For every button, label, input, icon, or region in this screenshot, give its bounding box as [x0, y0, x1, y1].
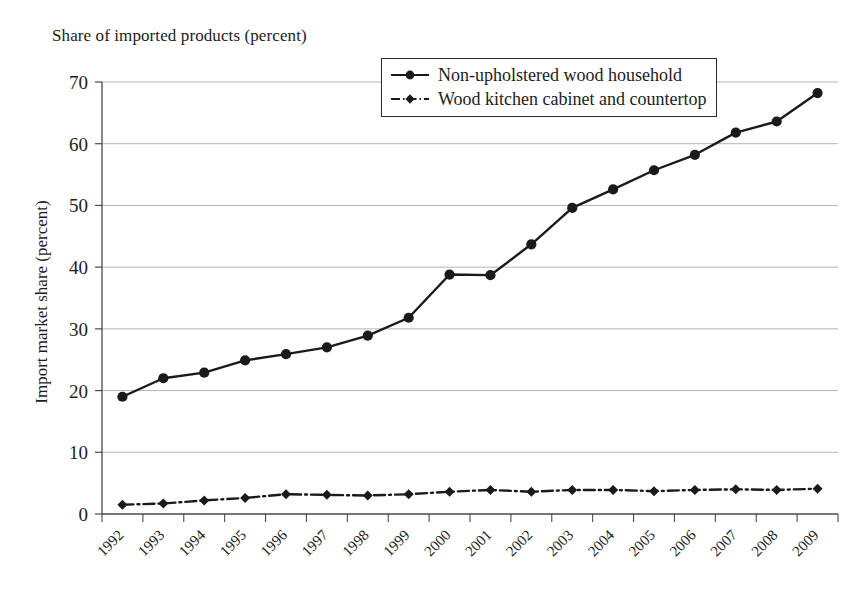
x-axis-tick-label: 1998 [339, 527, 372, 560]
series-line-2 [122, 489, 817, 505]
data-point [199, 368, 209, 378]
data-point [690, 485, 700, 495]
data-point [240, 493, 250, 503]
diamond-marker-icon [390, 91, 430, 107]
data-point [281, 489, 291, 499]
y-axis-tick-label: 60 [69, 134, 88, 155]
data-point [731, 128, 741, 138]
chart-legend: Non-upholstered wood household Wood kitc… [381, 58, 717, 117]
series-line-1 [122, 93, 817, 397]
x-axis-tick-label: 2003 [544, 527, 577, 560]
data-point [363, 490, 373, 500]
data-point [608, 184, 618, 194]
data-point [526, 487, 536, 497]
data-point [117, 500, 127, 510]
x-axis-tick-label: 1992 [94, 527, 127, 560]
y-axis-tick-label: 40 [69, 257, 88, 278]
data-point [731, 484, 741, 494]
data-point [649, 165, 659, 175]
circle-marker-icon [390, 67, 430, 83]
data-point [608, 485, 618, 495]
x-axis-tick-label: 2004 [585, 526, 618, 559]
data-point [404, 313, 414, 323]
y-axis-tick-label: 10 [69, 442, 88, 463]
data-point [444, 269, 454, 279]
data-point [281, 349, 291, 359]
data-point [813, 484, 823, 494]
data-point [199, 495, 209, 505]
chart-figure: Share of imported products (percent) Imp… [0, 0, 866, 608]
y-axis-tick-label: 30 [69, 319, 88, 340]
data-point [772, 485, 782, 495]
x-axis-tick-label: 2000 [421, 527, 454, 560]
data-point [158, 499, 168, 509]
x-axis-tick-label: 1997 [298, 526, 331, 559]
legend-label-wood-kitchen-cabinet-and-countertop: Wood kitchen cabinet and countertop [438, 90, 706, 108]
data-point [240, 355, 250, 365]
legend-item-non-upholstered-wood-household: Non-upholstered wood household [390, 63, 706, 87]
data-point [158, 373, 168, 383]
data-point [567, 203, 577, 213]
y-axis-tick-label: 70 [69, 72, 88, 93]
x-axis-tick-label: 1996 [258, 526, 291, 559]
data-point [690, 150, 700, 160]
legend-item-wood-kitchen-cabinet-and-countertop: Wood kitchen cabinet and countertop [390, 87, 706, 111]
data-point [404, 489, 414, 499]
y-axis-tick-label: 0 [79, 504, 89, 525]
x-axis-tick-label: 1999 [380, 527, 413, 560]
x-axis-tick-label: 2009 [789, 527, 822, 560]
data-point [322, 342, 332, 352]
x-axis-tick-label: 2005 [626, 527, 659, 560]
x-axis-ticks-group [102, 514, 838, 522]
data-point [117, 392, 127, 402]
data-point [567, 485, 577, 495]
x-axis-tick-label: 1993 [135, 527, 168, 560]
x-axis-tick-label: 2001 [462, 527, 495, 560]
data-point [445, 487, 455, 497]
legend-label-non-upholstered-wood-household: Non-upholstered wood household [438, 66, 682, 84]
data-point [485, 485, 495, 495]
data-point [485, 270, 495, 280]
data-point [812, 88, 822, 98]
y-axis-tick-label: 50 [69, 195, 88, 216]
data-point [649, 486, 659, 496]
x-axis-tick-label: 2007 [707, 526, 740, 559]
data-point [526, 239, 536, 249]
x-axis-labels-group: 1992199319941995199619971998199920002001… [94, 526, 822, 559]
data-point [363, 331, 373, 341]
data-series-group [117, 88, 822, 510]
x-axis-tick-label: 2006 [666, 526, 699, 559]
x-axis-tick-label: 2008 [748, 527, 781, 560]
data-point [322, 490, 332, 500]
x-axis-tick-label: 1995 [217, 527, 250, 560]
data-point [772, 116, 782, 126]
axis-lines-group [102, 82, 838, 514]
y-axis-tick-label: 20 [69, 381, 88, 402]
x-axis-tick-label: 1994 [176, 526, 209, 559]
y-axis-ticks-group: 010203040506070 [69, 72, 102, 525]
x-axis-tick-label: 2002 [503, 527, 536, 560]
